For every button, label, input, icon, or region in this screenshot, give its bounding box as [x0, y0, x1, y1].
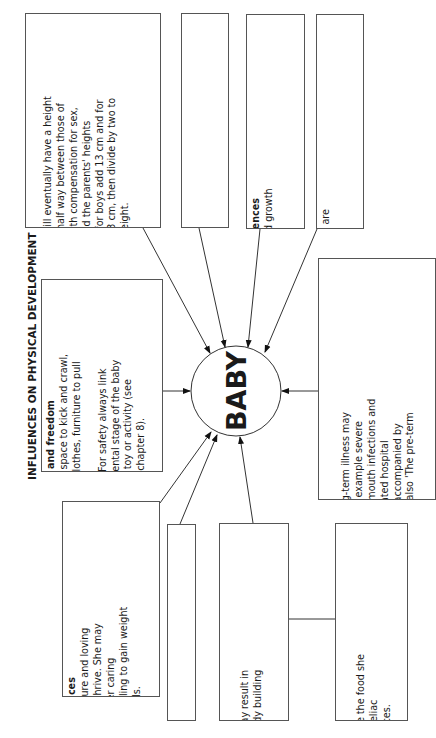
encouragement-text: when new skills are achieved.	[320, 209, 344, 229]
baby-label: BABY	[221, 351, 252, 431]
heredity-box: Heredity Most children will eventually h…	[25, 13, 161, 228]
endocrine-text: For example, lack of thyroid and growth …	[263, 188, 287, 229]
opportunity-box: Opportunity and freedom A baby needs spa…	[41, 279, 163, 472]
opportunity-text: A baby needs space to kick and crawl, un…	[58, 354, 95, 472]
malabsorption-box: Malabsorption The baby is unable to use …	[335, 523, 408, 721]
encouragement-box: Encouragement when new skills are achiev…	[316, 14, 364, 229]
diagram-title: INFLUENCES ON PHYSICAL DEVELOPMENT	[26, 232, 38, 480]
illness-box: Illness Sudden or especially long-term i…	[318, 258, 436, 500]
emotional-text: A baby needs a secure and loving home to…	[79, 607, 142, 697]
feeding-text: A poorly balanced diet may result in ins…	[239, 670, 276, 721]
opportunity-heading: Opportunity and freedom	[45, 400, 56, 472]
opportunity-remember-text: For safety always link the developmental…	[97, 360, 147, 472]
malabsorption-text: The baby is unable to use the food she i…	[355, 654, 392, 721]
feeding-box: Under or over feeding A poorly balanced …	[219, 523, 289, 721]
emotional-heading: Emotional influences	[66, 677, 77, 697]
heredity-text: Most children will eventually have a hei…	[42, 96, 130, 228]
rest-box: Rest, sleep and fresh air	[167, 524, 196, 721]
emotional-box: Emotional influences A baby needs a secu…	[62, 501, 160, 697]
chromosomal-box: Chromosomal abnormalities For example, D…	[181, 13, 229, 228]
endocrine-heading: Endocrine or hormonal influences	[250, 198, 261, 229]
illness-text: Sudden or especially long-term illness m…	[340, 399, 428, 500]
endocrine-box: Endocrine or hormonal influences For exa…	[246, 14, 305, 229]
